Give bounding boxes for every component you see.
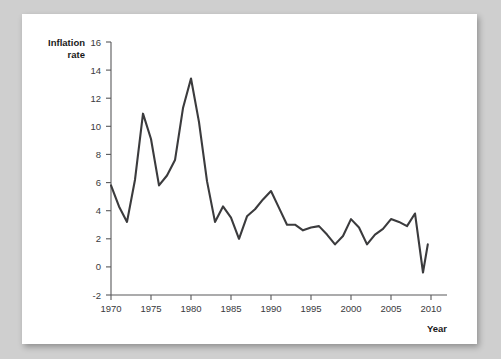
x-tick-label-1985: 1985 [220, 303, 241, 314]
inflation-rate-line-chart: 16 14 12 10 8 6 4 2 0 -2 Inflation rate [22, 14, 477, 344]
x-tick-label-1975: 1975 [140, 303, 161, 314]
y-tick-label-10: 10 [90, 121, 101, 132]
y-tick-label-16: 16 [90, 37, 101, 48]
y-tick-label-8: 8 [96, 149, 101, 160]
x-tick-label-2005: 2005 [380, 303, 401, 314]
y-tick-label-6: 6 [96, 177, 101, 188]
y-tick-label-4: 4 [96, 205, 101, 216]
y-axis-title-line2: rate [68, 49, 85, 60]
y-axis-ticks [106, 42, 111, 295]
chart-card: 16 14 12 10 8 6 4 2 0 -2 Inflation rate [22, 14, 477, 344]
x-tick-label-1980: 1980 [180, 303, 201, 314]
y-tick-label-0: 0 [96, 261, 101, 272]
x-axis-title: Year [427, 323, 447, 334]
y-tick-label-12: 12 [90, 93, 101, 104]
x-tick-label-1990: 1990 [260, 303, 281, 314]
y-axis-group: 16 14 12 10 8 6 4 2 0 -2 Inflation rate [48, 37, 111, 301]
inflation-rate-series-line [111, 79, 428, 273]
x-tick-label-1970: 1970 [100, 303, 121, 314]
x-tick-label-2010: 2010 [420, 303, 441, 314]
x-tick-label-2000: 2000 [340, 303, 361, 314]
x-axis-ticks [111, 295, 431, 300]
y-axis-title-line1: Inflation [48, 37, 85, 48]
y-tick-label-minus2: -2 [93, 290, 101, 301]
y-axis-title: Inflation rate [48, 37, 85, 60]
x-tick-label-1995: 1995 [300, 303, 321, 314]
x-axis-group: 1970 1975 1980 1985 1990 1995 2000 2005 … [100, 295, 447, 334]
y-tick-label-14: 14 [90, 65, 101, 76]
x-axis-tick-labels: 1970 1975 1980 1985 1990 1995 2000 2005 … [100, 303, 441, 314]
y-axis-tick-labels: 16 14 12 10 8 6 4 2 0 -2 [90, 37, 101, 301]
y-tick-label-2: 2 [96, 233, 101, 244]
